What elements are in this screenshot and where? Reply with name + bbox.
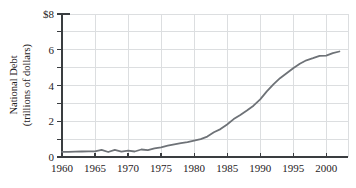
tick-label: 4 xyxy=(49,80,55,92)
tick-label: 6 xyxy=(49,44,55,56)
tick-label: 1975 xyxy=(150,162,173,174)
y-axis-title-line2: (trillions of dollars) xyxy=(21,43,33,126)
national-debt-line-chart: 0246$81960196519701975198019851990199520… xyxy=(0,0,356,188)
tick-label: 1995 xyxy=(282,162,305,174)
tick-label: 2000 xyxy=(315,162,338,174)
grid-lines xyxy=(62,14,348,157)
debt-line-series xyxy=(62,52,339,153)
tick-label: $8 xyxy=(43,8,55,20)
y-axis-title-line1: National Debt xyxy=(8,55,19,114)
tick-label: 1965 xyxy=(84,162,107,174)
tick-label: 1960 xyxy=(51,162,74,174)
national-debt-chart-figure: 0246$81960196519701975198019851990199520… xyxy=(0,0,356,188)
tick-label: 1990 xyxy=(249,162,272,174)
tick-label: 1985 xyxy=(216,162,239,174)
tick-label: 1970 xyxy=(117,162,140,174)
tick-label: 2 xyxy=(49,115,55,127)
tick-label: 1980 xyxy=(183,162,206,174)
